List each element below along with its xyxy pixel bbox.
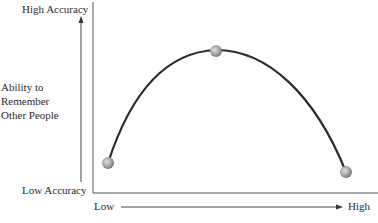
data-point-peak [210,45,222,57]
inverted-u-curve [108,50,346,172]
data-point-low [102,157,114,169]
data-point-high [340,166,352,178]
chart-canvas [0,0,378,223]
y-arrow-head-icon [79,16,84,23]
x-arrow-head-icon [336,205,343,210]
